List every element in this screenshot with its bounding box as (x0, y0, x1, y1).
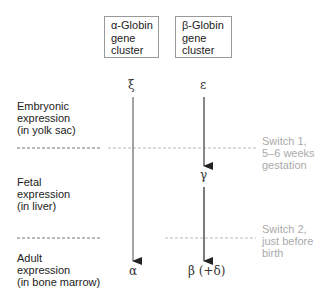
gene-zeta: ξ (128, 78, 135, 92)
gene-beta-delta: β (+δ) (188, 264, 225, 278)
gene-gamma: γ (200, 168, 207, 182)
gene-epsilon: ε (200, 78, 206, 92)
gene-alpha: α (129, 264, 137, 278)
diagram-canvas (0, 0, 328, 300)
